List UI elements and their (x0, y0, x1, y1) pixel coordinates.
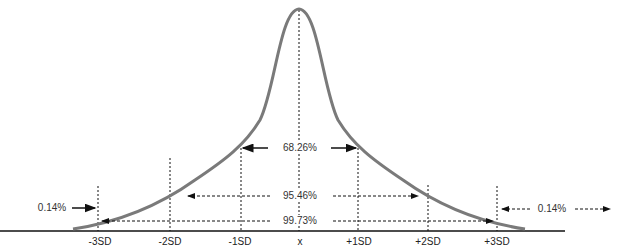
x-label-plus-1sd: +1SD (346, 236, 371, 247)
x-label-minus-2sd: -2SD (159, 236, 182, 247)
x-label-mean: x (298, 236, 303, 247)
normal-distribution-diagram: 68.26% 95.46% 99.73% 0.14% 0.14% -3SD -2… (0, 0, 620, 252)
two-sd-percent-label: 95.46% (282, 190, 318, 201)
three-sd-percent-label: 99.73% (282, 215, 318, 226)
right-tail-percent-label: 0.14% (537, 203, 567, 214)
x-label-minus-3sd: -3SD (89, 236, 112, 247)
x-label-minus-1sd: -1SD (229, 236, 252, 247)
one-sd-percent-label: 68.26% (282, 142, 318, 153)
x-label-plus-3sd: +3SD (484, 236, 509, 247)
left-tail-percent-label: 0.14% (37, 202, 67, 213)
x-label-plus-2sd: +2SD (415, 236, 440, 247)
